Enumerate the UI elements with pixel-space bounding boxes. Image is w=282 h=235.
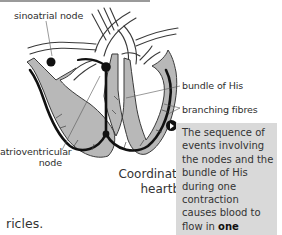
label-sinoatrial-node: sinoatrial node bbox=[14, 10, 83, 21]
label-branching-fibres: branching fibres bbox=[182, 104, 258, 115]
callout-text-start: The sequence of events involving the nod… bbox=[182, 127, 273, 232]
callout-text-end: direction bbox=[182, 234, 226, 235]
body-text-fragment: ricles. bbox=[6, 216, 43, 231]
callout-bold-word: one bbox=[218, 221, 239, 232]
atrioventricular-node-dot bbox=[103, 131, 110, 138]
callout-box: The sequence of events involving the nod… bbox=[176, 123, 277, 235]
sinoatrial-node-dot bbox=[47, 58, 56, 67]
label-bundle-of-his: bundle of His bbox=[182, 80, 243, 91]
label-atrioventricular-node: atrioventricular node bbox=[0, 146, 62, 168]
label-av-line1: atrioventricular bbox=[0, 146, 62, 157]
bundle-junction-dot bbox=[101, 62, 111, 72]
label-av-line2: node bbox=[0, 157, 62, 168]
